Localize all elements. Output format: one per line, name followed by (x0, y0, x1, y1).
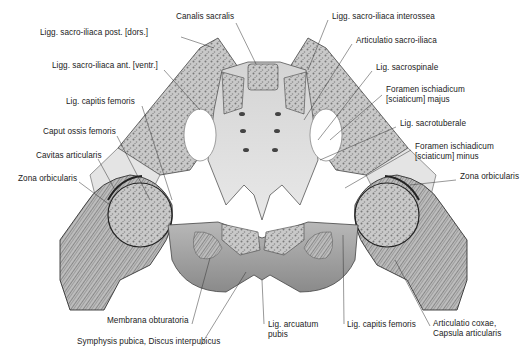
label-caput-ossis-femoris: Caput ossis femoris (43, 127, 116, 137)
label-cavitas-articularis: Cavitas articularis (36, 151, 102, 161)
label-ligg-sacro-iliaca-post: Ligg. sacro-iliaca post. [dors.] (40, 28, 148, 38)
label-line: [sciaticum] majus (386, 95, 465, 105)
left-femur (60, 175, 173, 310)
label-zona-orbicularis-left: Zona orbicularis (18, 174, 77, 184)
label-line: Foramen ischiadicum (415, 142, 494, 152)
sacrum (208, 62, 318, 220)
label-membrana-obturatoria: Membrana obturatoria (107, 316, 189, 326)
right-foramen-ischiadicum (310, 109, 342, 161)
label-ligg-sacro-iliaca-ant: Ligg. sacro-iliaca ant. [ventr.] (52, 61, 158, 71)
label-canalis-sacralis: Canalis sacralis (176, 12, 234, 22)
label-symphysis-pubica: Symphysis pubica, Discus interpubicus (77, 337, 220, 347)
label-lig-sacrospinale: Lig. sacrospinale (376, 63, 438, 73)
label-lig-sacrotuberale: Lig. sacrotuberale (400, 119, 466, 129)
label-line: pubis (268, 330, 318, 340)
label-line: Capsula articularis (433, 329, 501, 339)
label-articulatio-coxae: Articulatio coxae, Capsula articularis (433, 319, 501, 339)
label-line: Foramen ischiadicum (386, 85, 465, 95)
label-articulatio-sacro-iliaca: Articulatio sacro-iliaca (356, 36, 437, 46)
label-lig-arcuatum-pubis: Lig. arcuatum pubis (268, 320, 318, 340)
label-lig-capitis-femoris-left: Lig. capitis femoris (66, 97, 135, 107)
pubis (168, 222, 358, 292)
label-foramen-ischiadicum-majus: Foramen ischiadicum [sciaticum] majus (386, 85, 465, 105)
label-lig-capitis-femoris-right: Lig. capitis femoris (347, 320, 416, 330)
left-foramen-ischiadicum (184, 109, 216, 161)
label-zona-orbicularis-right: Zona orbicularis (460, 172, 519, 182)
label-line: [sciaticum] minus (415, 152, 494, 162)
pelvis-illustration (0, 0, 527, 352)
label-line: Articulatio coxae, (433, 319, 501, 329)
label-ligg-sacro-iliaca-interossea: Ligg. sacro-iliaca interossea (332, 12, 435, 22)
label-foramen-ischiadicum-minus: Foramen ischiadicum [sciaticum] minus (415, 142, 494, 162)
label-line: Lig. arcuatum (268, 320, 318, 330)
